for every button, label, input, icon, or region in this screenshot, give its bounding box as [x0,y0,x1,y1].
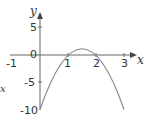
stray-x-label: x [0,83,6,94]
y-axis-arrow-icon [37,12,43,19]
chart: y x 0 -1 1 2 3 5 -5 -10 x [0,0,145,120]
x-tick-label-3: 3 [121,57,128,70]
x-axis-arrow-icon [130,52,137,58]
x-axis-label: x [137,53,144,67]
y-axis-label: y [29,4,37,18]
parabola-curve [40,49,124,110]
y-tick-label-5: 5 [30,21,37,34]
origin-label: 0 [30,48,37,61]
y-tick-label-neg10: -10 [20,104,38,117]
x-tick-label-2: 2 [93,57,100,70]
y-tick-label-neg5: -5 [24,76,35,89]
x-tick-label-neg1: -1 [6,57,17,70]
x-tick-label-1: 1 [64,57,71,70]
